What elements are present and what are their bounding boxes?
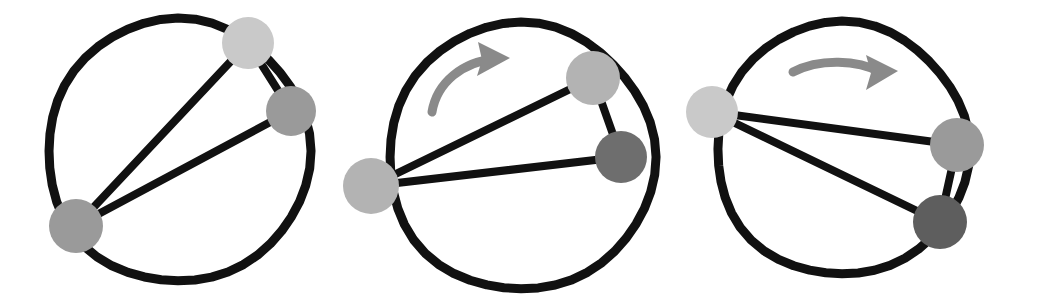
graph-rotation-figure — [0, 0, 1038, 300]
node-light-left[interactable] — [686, 86, 738, 138]
figure-root — [0, 0, 1038, 300]
node-light-top[interactable] — [222, 17, 274, 69]
node-medium-bottomleft[interactable] — [49, 199, 103, 253]
figure-background — [0, 0, 1038, 300]
node-medium-right[interactable] — [930, 118, 984, 172]
node-mediumlight-top[interactable] — [566, 51, 620, 105]
node-dark-right[interactable] — [595, 131, 647, 183]
node-dark-bottomright[interactable] — [913, 195, 967, 249]
node-light-left[interactable] — [343, 158, 399, 214]
node-medium-right[interactable] — [266, 86, 316, 136]
